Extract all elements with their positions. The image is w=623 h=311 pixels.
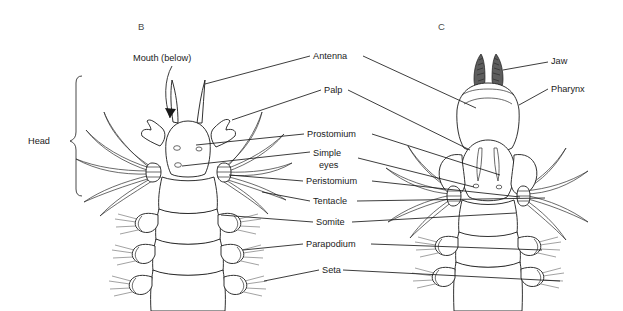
label-simple-eyes-line2: eyes xyxy=(319,160,339,170)
anatomical-figure: B C Head xyxy=(0,0,623,311)
antennae xyxy=(171,80,205,123)
prostomium xyxy=(166,121,211,177)
parapodium-list-item xyxy=(221,244,264,265)
somite-3 xyxy=(153,239,224,276)
parapodium-list-item xyxy=(112,244,155,265)
parapodium-list-item xyxy=(518,236,561,257)
specimen-b xyxy=(76,80,292,311)
panel-label-b: B xyxy=(138,21,144,32)
head-bracket: Head xyxy=(28,76,82,196)
peristomial-tentacles-left xyxy=(76,112,152,216)
parapodium-list-item xyxy=(521,267,564,288)
label-mouth-below: Mouth (below) xyxy=(133,53,191,63)
peristomial-tentacles-right xyxy=(224,112,292,214)
parapodium-list-item xyxy=(109,275,152,296)
label-peristomium: Peristomium xyxy=(306,176,357,186)
somite-2 xyxy=(156,209,221,245)
label-tentacle: Tentacle xyxy=(313,196,347,206)
parapodia-right xyxy=(218,213,267,296)
somite-4 xyxy=(151,270,226,311)
parapodium-list-item xyxy=(115,213,158,234)
parapodium-list-item xyxy=(412,267,455,288)
panel-label-c: C xyxy=(438,21,445,32)
head-bracket-label: Head xyxy=(28,136,50,146)
label-prostomium: Prostomium xyxy=(307,129,356,139)
label-simple-eyes: Simple xyxy=(313,148,341,158)
parapodia-left-c xyxy=(412,236,458,288)
label-pharynx: Pharynx xyxy=(551,84,585,94)
label-somite: Somite xyxy=(316,217,345,227)
somite-1 xyxy=(159,177,218,214)
parapodia-left xyxy=(109,213,158,296)
label-jaw: Jaw xyxy=(551,56,568,66)
parapodium-list-item xyxy=(224,275,267,296)
label-antenna: Antenna xyxy=(313,51,348,61)
peristomial-tentacles-left-c xyxy=(386,146,453,238)
somites xyxy=(151,177,226,311)
label-palp: Palp xyxy=(324,85,342,95)
somites-c xyxy=(454,200,523,311)
label-parapodium: Parapodium xyxy=(306,239,356,249)
label-seta: Seta xyxy=(322,265,342,275)
